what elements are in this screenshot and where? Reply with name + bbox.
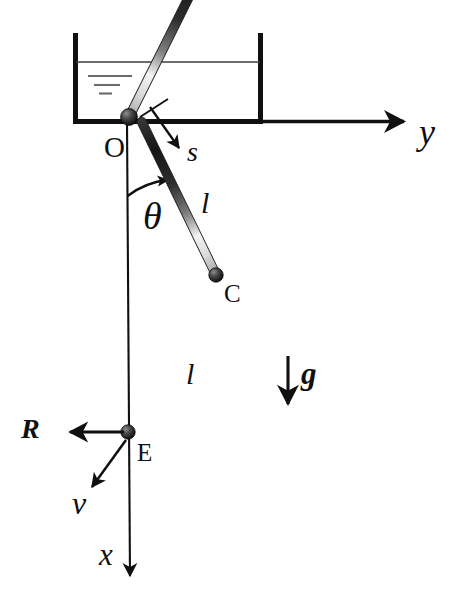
joint-label-C: C — [224, 281, 241, 306]
joint-label-E: E — [137, 440, 152, 465]
theta-angle-arc — [128, 180, 168, 196]
theta-angle-label: θ — [143, 197, 162, 235]
joint-O — [121, 109, 138, 126]
x-axis-label: x — [99, 539, 113, 570]
link-label-upper-l: l — [201, 188, 209, 218]
joint-label-O: O — [104, 133, 125, 162]
gravity-g-label: g — [301, 358, 317, 389]
link-upper — [124, 0, 218, 122]
velocity-v-vector — [92, 440, 126, 487]
coordinate-axes — [126, 122, 404, 577]
velocity-v-label: v — [72, 487, 86, 519]
y-axis-label: y — [419, 114, 435, 150]
arclength-s-label: s — [187, 138, 198, 166]
link-label-lower-l: l — [186, 359, 194, 389]
x-axis-line — [127, 122, 130, 576]
reaction-R-label: R — [21, 415, 40, 443]
joint-C — [209, 268, 223, 282]
physics-diagram-figure: O C E l l θ s R v g y x — [0, 0, 456, 606]
fluid-level-hatch-marks — [88, 76, 132, 94]
